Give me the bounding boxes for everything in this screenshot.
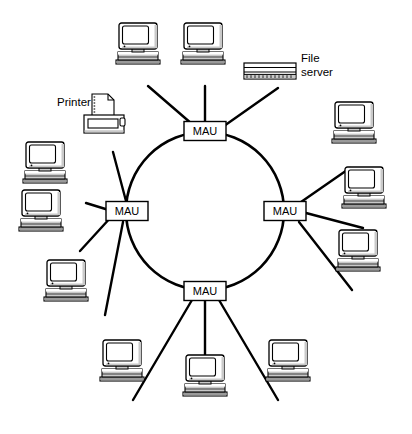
link-file-server-to-mau-top xyxy=(224,88,278,126)
token-ring-backbone xyxy=(126,132,284,290)
link-pc-left-3-to-mau-left xyxy=(105,222,123,315)
link-pc-right-1-to-mau-right xyxy=(301,168,350,202)
computer-icon-pc-top-2[interactable] xyxy=(181,23,225,64)
computer-icon-pc-bottom-2[interactable] xyxy=(183,355,227,396)
computer-icon-pc-bottom-1[interactable] xyxy=(100,340,144,381)
computer-icon-pc-bottom-3[interactable] xyxy=(266,340,310,381)
mau-left-label: MAU xyxy=(115,205,140,217)
mau-left[interactable]: MAU xyxy=(106,202,148,221)
mau-right[interactable]: MAU xyxy=(264,202,306,221)
link-pc-top-1-to-mau-top xyxy=(148,86,192,124)
computer-icon-pc-right-1[interactable] xyxy=(332,102,376,143)
computer-icon-pc-left-2[interactable] xyxy=(19,190,63,231)
network-topology-diagram: MAU MAU MAU MAU xyxy=(0,0,412,434)
mau-top-label: MAU xyxy=(193,125,218,137)
mau-right-label: MAU xyxy=(273,205,298,217)
computer-icon-pc-right-3[interactable] xyxy=(336,230,380,271)
file-server-label-line1: File xyxy=(301,52,320,64)
mau-bottom-label: MAU xyxy=(193,285,218,297)
link-printer-to-mau-left xyxy=(113,152,126,201)
network-diagram-canvas: MAU MAU MAU MAU xyxy=(0,0,412,434)
file-server-label-line2: server xyxy=(301,66,333,78)
mau-nodes: MAU MAU MAU MAU xyxy=(106,122,306,301)
mau-bottom[interactable]: MAU xyxy=(184,282,226,301)
link-pc-right-2-to-mau-right xyxy=(306,213,363,228)
computer-icon-pc-right-2[interactable] xyxy=(342,167,386,208)
link-pc-left-2-to-mau-left xyxy=(80,216,112,251)
link-pc-bottom-1-to-mau-bottom xyxy=(133,300,192,400)
file-server-icon[interactable] xyxy=(244,63,296,79)
computer-icon-pc-left-1[interactable] xyxy=(23,142,67,183)
mau-top[interactable]: MAU xyxy=(184,122,226,141)
computer-nodes xyxy=(19,23,386,396)
printer-label: Printer xyxy=(57,96,91,108)
computer-icon-pc-left-3[interactable] xyxy=(44,260,88,301)
computer-icon-pc-top-1[interactable] xyxy=(116,23,160,64)
